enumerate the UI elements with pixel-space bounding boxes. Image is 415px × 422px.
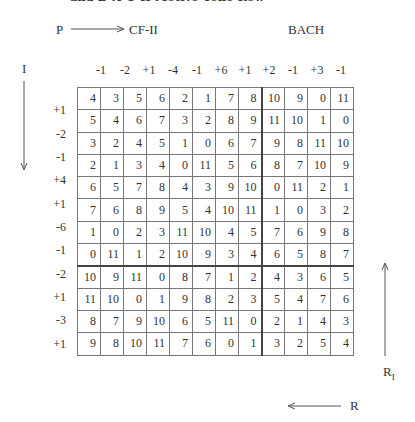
matrix-cell: 10 bbox=[216, 199, 239, 221]
matrix-cell: 3 bbox=[239, 288, 262, 310]
matrix-cell: 7 bbox=[216, 88, 239, 110]
matrix-cell: 5 bbox=[216, 154, 239, 176]
matrix-cell: 9 bbox=[147, 199, 170, 221]
row-interval: +1 bbox=[36, 197, 66, 212]
matrix-row: 11100198235476 bbox=[78, 288, 354, 310]
matrix-cell: 8 bbox=[78, 310, 101, 332]
right-arrow-icon bbox=[70, 24, 126, 34]
matrix-cell: 10 bbox=[193, 221, 216, 243]
matrix-cell: 4 bbox=[78, 88, 101, 110]
matrix-cell: 2 bbox=[308, 177, 331, 199]
matrix-cell: 9 bbox=[308, 221, 331, 243]
matrix-cell: 11 bbox=[239, 199, 262, 221]
matrix-cell: 3 bbox=[262, 333, 285, 355]
column-interval: +3 bbox=[305, 63, 329, 78]
matrix-cell: 11 bbox=[331, 88, 354, 110]
matrix-cell: 1 bbox=[285, 310, 308, 332]
row-interval: -2 bbox=[36, 127, 66, 142]
matrix-cell: 2 bbox=[124, 221, 147, 243]
matrix-cell: 11 bbox=[101, 244, 124, 266]
matrix-cell: 7 bbox=[331, 244, 354, 266]
matrix-cell: 7 bbox=[147, 110, 170, 132]
matrix-cell: 9 bbox=[78, 333, 101, 355]
matrix-row: 76895410111032 bbox=[78, 199, 354, 221]
matrix-cell: 4 bbox=[285, 288, 308, 310]
inversion-label: I bbox=[22, 61, 26, 77]
matrix-cell: 5 bbox=[170, 199, 193, 221]
matrix-cell: 3 bbox=[78, 132, 101, 154]
matrix-cell: 10 bbox=[170, 244, 193, 266]
matrix-cell: 6 bbox=[147, 88, 170, 110]
figure-caption: and B-A-C-H Motive Tone Row bbox=[70, 0, 264, 4]
matrix-cell: 6 bbox=[78, 177, 101, 199]
prime-label: P bbox=[56, 22, 63, 38]
matrix-cell: 0 bbox=[308, 88, 331, 110]
matrix-cell: 5 bbox=[285, 244, 308, 266]
matrix-cell: 1 bbox=[124, 244, 147, 266]
matrix-cell: 5 bbox=[147, 132, 170, 154]
matrix-cell: 1 bbox=[101, 154, 124, 176]
matrix-cell: 2 bbox=[331, 199, 354, 221]
matrix-cell: 5 bbox=[262, 288, 285, 310]
matrix-cell: 6 bbox=[308, 266, 331, 288]
matrix-cell: 5 bbox=[124, 88, 147, 110]
matrix-cell: 3 bbox=[285, 266, 308, 288]
twelve-tone-matrix: 4356217810901154673289111010324510679811… bbox=[77, 87, 354, 356]
matrix-cell: 1 bbox=[331, 177, 354, 199]
row-interval: +1 bbox=[36, 103, 66, 118]
matrix-cell: 3 bbox=[216, 244, 239, 266]
matrix-cell: 0 bbox=[170, 154, 193, 176]
matrix-cell: 8 bbox=[331, 221, 354, 243]
retrograde-inversion-label: RI bbox=[383, 364, 395, 382]
row-interval: -1 bbox=[36, 243, 66, 258]
matrix-cell: 11 bbox=[262, 110, 285, 132]
matrix-cell: 8 bbox=[285, 132, 308, 154]
matrix-cell: 3 bbox=[147, 221, 170, 243]
matrix-cell: 0 bbox=[285, 199, 308, 221]
up-arrow-icon bbox=[380, 262, 390, 358]
matrix-cell: 5 bbox=[239, 221, 262, 243]
matrix-cell: 10 bbox=[78, 266, 101, 288]
matrix-cell: 6 bbox=[285, 221, 308, 243]
matrix-cell: 4 bbox=[101, 110, 124, 132]
matrix-cell: 10 bbox=[101, 288, 124, 310]
matrix-cell: 8 bbox=[101, 333, 124, 355]
matrix-cell: 11 bbox=[308, 132, 331, 154]
matrix-cell: 6 bbox=[331, 288, 354, 310]
column-interval: +2 bbox=[257, 63, 281, 78]
matrix-cell: 8 bbox=[193, 288, 216, 310]
matrix-cell: 9 bbox=[193, 244, 216, 266]
matrix-cell: 7 bbox=[308, 288, 331, 310]
row-interval: -2 bbox=[36, 267, 66, 282]
matrix-cell: 11 bbox=[124, 266, 147, 288]
matrix-cell: 8 bbox=[262, 154, 285, 176]
matrix-cell: 5 bbox=[308, 333, 331, 355]
matrix-cell: 8 bbox=[124, 199, 147, 221]
matrix-cell: 1 bbox=[147, 288, 170, 310]
matrix-cell: 5 bbox=[101, 177, 124, 199]
column-interval: -1 bbox=[281, 63, 305, 78]
matrix-cell: 8 bbox=[170, 266, 193, 288]
matrix-cell: 6 bbox=[262, 244, 285, 266]
matrix-cell: 4 bbox=[262, 266, 285, 288]
column-interval: -1 bbox=[89, 63, 113, 78]
matrix-cell: 8 bbox=[216, 110, 239, 132]
column-interval: +6 bbox=[209, 63, 233, 78]
matrix-cell: 9 bbox=[101, 266, 124, 288]
matrix-cell: 11 bbox=[193, 154, 216, 176]
matrix-cell: 11 bbox=[285, 177, 308, 199]
matrix-cell: 0 bbox=[239, 310, 262, 332]
matrix-cell: 9 bbox=[331, 154, 354, 176]
matrix-cell: 6 bbox=[193, 333, 216, 355]
matrix-cell: 4 bbox=[216, 221, 239, 243]
matrix-cell: 10 bbox=[262, 88, 285, 110]
matrix-cell: 7 bbox=[170, 333, 193, 355]
matrix-cell: 7 bbox=[101, 310, 124, 332]
matrix-cell: 0 bbox=[101, 221, 124, 243]
matrix-cell: 8 bbox=[147, 177, 170, 199]
matrix-cell: 1 bbox=[262, 199, 285, 221]
matrix-row: 10911087124365 bbox=[78, 266, 354, 288]
matrix-cell: 10 bbox=[239, 177, 262, 199]
matrix-cell: 0 bbox=[147, 266, 170, 288]
column-interval: -4 bbox=[161, 63, 185, 78]
